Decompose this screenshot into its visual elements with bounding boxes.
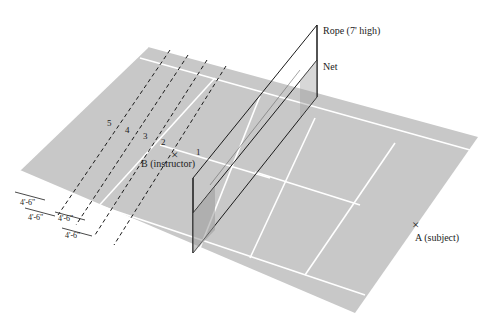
subject-label: A (subject) (415, 232, 459, 244)
rope-label: Rope (7' high) (323, 25, 380, 37)
subject-mark: × (412, 217, 419, 232)
diagram-stage: Rope (7' high) Net B (instructor) A (sub… (0, 0, 503, 325)
net-label: Net (323, 61, 338, 72)
court-diagram: Rope (7' high) Net B (instructor) A (sub… (0, 0, 503, 325)
position-2: 2 (161, 137, 166, 147)
spacing-2: 4'-6" (28, 213, 43, 222)
instructor-label: B (instructor) (141, 158, 195, 170)
spacing-1: 4'-6" (20, 198, 35, 207)
court-surface (20, 47, 478, 313)
position-5: 5 (107, 118, 112, 128)
instructor-mark: × (171, 147, 178, 162)
spacing-4: 4'-6" (65, 231, 80, 240)
position-3: 3 (143, 131, 148, 141)
position-1: 1 (196, 147, 201, 157)
spacing-3: 4'-6" (58, 214, 73, 223)
position-4: 4 (125, 125, 130, 135)
